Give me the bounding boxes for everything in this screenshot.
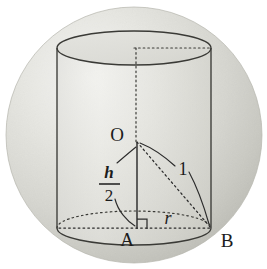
fraction-denominator-2: 2 [105, 186, 114, 205]
label-point-B: B [221, 230, 234, 251]
geometry-diagram: O A B r 1 h 2 [0, 0, 267, 269]
inscribed-cylinder [57, 31, 211, 245]
label-point-A: A [120, 229, 134, 250]
label-radius-r: r [164, 208, 172, 228]
figure-root: O A B r 1 h 2 [0, 0, 267, 269]
label-point-O: O [110, 124, 124, 145]
fraction-numerator-h: h [104, 163, 113, 182]
label-slant-one: 1 [179, 159, 188, 179]
